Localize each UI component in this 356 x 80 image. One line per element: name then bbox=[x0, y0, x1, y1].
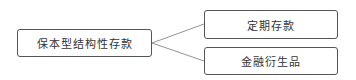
connector-root-to-child0 bbox=[152, 24, 204, 43]
child-node-time-deposit: 定期存款 bbox=[204, 10, 338, 39]
connector-root-to-child1 bbox=[152, 43, 204, 61]
root-node-label: 保本型结构性存款 bbox=[37, 35, 133, 51]
child-node-label: 金融衍生品 bbox=[241, 53, 301, 69]
root-node: 保本型结构性存款 bbox=[17, 29, 152, 57]
child-node-financial-derivatives: 金融衍生品 bbox=[204, 47, 338, 75]
child-node-label: 定期存款 bbox=[247, 17, 295, 33]
